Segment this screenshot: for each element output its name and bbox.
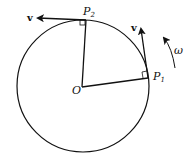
- right-angle-p1: [142, 71, 147, 78]
- radius-o-p2: [82, 20, 86, 87]
- circle: [17, 20, 149, 152]
- velocity-label-p2: v: [26, 12, 34, 23]
- radius-o-p1: [82, 78, 148, 87]
- point-label-p2: P2: [82, 5, 95, 19]
- point-label-p1: P1: [152, 70, 165, 84]
- right-angle-p2: [80, 20, 85, 25]
- velocity-arrow-p1: [141, 29, 148, 78]
- omega-label: ω: [174, 44, 183, 57]
- center-label: O: [72, 84, 81, 97]
- velocity-arrow-p2: [38, 18, 86, 20]
- velocity-label-p1: v: [130, 22, 138, 33]
- circular-motion-diagram: v v P2 P1 O ω: [0, 0, 187, 157]
